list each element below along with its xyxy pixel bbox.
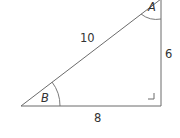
vertex-label-b: B — [41, 91, 49, 105]
hypotenuse-length-label: 10 — [80, 31, 95, 45]
angle-b-arc — [52, 82, 60, 106]
vertex-label-a: A — [147, 0, 156, 14]
vertical-length-label: 6 — [165, 47, 172, 61]
triangle-diagram: A B 10 6 8 — [0, 0, 180, 138]
right-angle-marker — [148, 93, 154, 99]
angle-a-arc — [141, 14, 161, 19]
horizontal-length-label: 8 — [94, 111, 101, 125]
